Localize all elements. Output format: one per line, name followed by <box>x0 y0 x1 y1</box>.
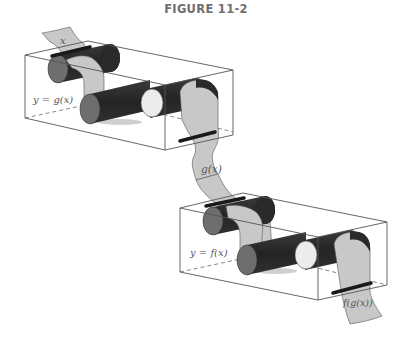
machine-g-label: y = g(x) <box>32 94 73 105</box>
label-middle-gx: g(x) <box>201 163 222 175</box>
label-input-x: x <box>60 35 66 46</box>
label-output-fgx: f(g(x)) <box>342 297 373 308</box>
machine-f-label: y = f(x) <box>189 247 228 258</box>
tape-f-output <box>334 232 382 324</box>
machine-g: x y = g(x) <box>25 27 233 180</box>
machine-f: y = f(x) f(g(x)) <box>180 174 387 324</box>
composition-diagram: x y = g(x) g(x) <box>0 0 412 338</box>
